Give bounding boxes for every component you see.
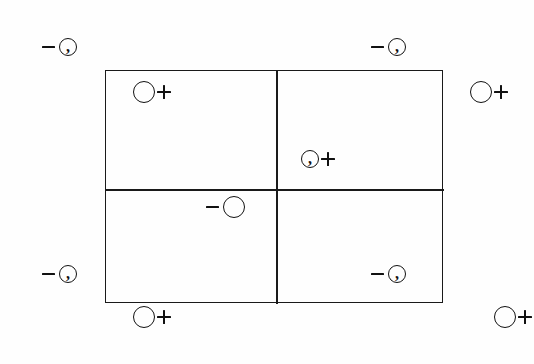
small-circle-comma-icon: , bbox=[388, 265, 406, 283]
marker-below-bottom-right bbox=[494, 306, 532, 328]
large-open-circle-icon bbox=[133, 81, 155, 103]
minus-sign-icon bbox=[371, 273, 384, 275]
large-open-circle-icon bbox=[133, 306, 155, 328]
vertical-divider-line bbox=[276, 71, 278, 304]
small-circle-comma-icon: , bbox=[301, 150, 319, 168]
plus-sign-icon bbox=[157, 85, 171, 99]
large-open-circle-icon bbox=[470, 81, 492, 103]
figure-canvas: ,,,,, bbox=[0, 0, 534, 364]
plus-sign-icon bbox=[494, 85, 508, 99]
minus-sign-icon bbox=[42, 273, 55, 275]
small-circle-comma-icon: , bbox=[59, 265, 77, 283]
marker-outside-top-right: , bbox=[371, 38, 406, 56]
minus-sign-icon bbox=[206, 206, 219, 208]
marker-center-bottom-left bbox=[206, 196, 245, 218]
horizontal-divider-line bbox=[106, 189, 444, 191]
marker-quadrant-top-right: , bbox=[301, 150, 335, 168]
large-open-circle-icon bbox=[223, 196, 245, 218]
marker-quadrant-bottom-right: , bbox=[371, 265, 406, 283]
marker-outside-bottom-left: , bbox=[42, 265, 77, 283]
marker-quadrant-top-left bbox=[133, 81, 171, 103]
minus-sign-icon bbox=[371, 46, 384, 48]
plus-sign-icon bbox=[157, 310, 171, 324]
marker-outside-right-upper bbox=[470, 81, 508, 103]
plus-sign-icon bbox=[518, 310, 532, 324]
small-circle-comma-icon: , bbox=[59, 38, 77, 56]
large-open-circle-icon bbox=[494, 306, 516, 328]
marker-below-bottom-left bbox=[133, 306, 171, 328]
plus-sign-icon bbox=[321, 152, 335, 166]
small-circle-comma-icon: , bbox=[388, 38, 406, 56]
minus-sign-icon bbox=[42, 46, 55, 48]
marker-outside-top-left: , bbox=[42, 38, 77, 56]
